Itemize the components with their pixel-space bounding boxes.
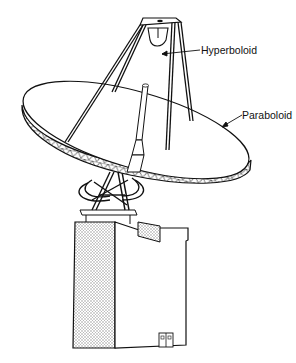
paraboloid-label: Paraboloid — [242, 110, 292, 121]
hyperboloid-label: Hyperboloid — [201, 45, 257, 56]
paraboloid-dish — [13, 61, 259, 199]
mount-tower — [79, 172, 144, 210]
telescope-diagram: Hyperboloid Paraboloid — [0, 0, 296, 363]
equipment-building — [73, 222, 188, 348]
